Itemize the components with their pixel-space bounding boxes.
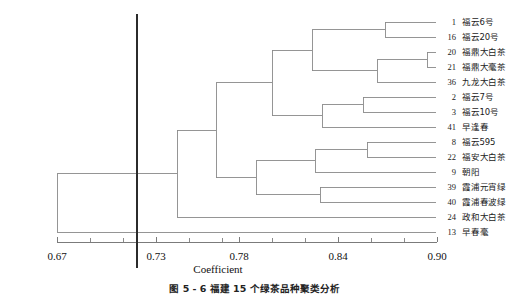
figure-caption: 图 5 - 6 福建 15 个绿茶品种聚类分析 bbox=[0, 281, 509, 295]
leaf-id: 20 bbox=[436, 48, 456, 57]
leaf-id: 24 bbox=[436, 213, 456, 222]
link-root bbox=[57, 174, 436, 232]
leaf-label: 朝阳 bbox=[462, 168, 480, 177]
link-39-40 bbox=[320, 187, 436, 202]
list-item: 9 朝阳 bbox=[436, 165, 480, 179]
leaf-id: 13 bbox=[436, 228, 456, 237]
link-main bbox=[216, 83, 272, 178]
list-item: 41 早逢春 bbox=[436, 120, 488, 134]
list-item: 40 霞浦春波绿 bbox=[436, 195, 506, 209]
leaf-label: 福云10号 bbox=[462, 108, 499, 117]
leaf-label: 政和大白茶 bbox=[462, 213, 506, 222]
dendrogram-links bbox=[57, 22, 436, 232]
leaf-label: 早逢春 bbox=[462, 123, 488, 132]
list-item: 16 福云20号 bbox=[436, 30, 499, 44]
x-tick-label: 0.84 bbox=[328, 250, 347, 262]
link-8_22-9 bbox=[315, 150, 436, 173]
link-2_3-41 bbox=[322, 105, 436, 128]
leaf-id: 22 bbox=[436, 153, 456, 162]
leaf-label: 福鼎大白茶 bbox=[462, 48, 506, 57]
leaf-id: 2 bbox=[436, 93, 456, 102]
link-1-16 bbox=[385, 22, 436, 37]
leaf-label: 福云20号 bbox=[462, 33, 499, 42]
leaf-label: 福鼎大毫茶 bbox=[462, 63, 506, 72]
list-item: 39 霞浦元宵绿 bbox=[436, 180, 506, 194]
x-axis-title: Coefficient bbox=[0, 263, 436, 275]
leaf-id: 16 bbox=[436, 33, 456, 42]
x-axis bbox=[57, 237, 437, 243]
list-item: 2 福云7号 bbox=[436, 90, 494, 104]
list-item: 1 福云6号 bbox=[436, 15, 494, 29]
list-item: 21 福鼎大毫茶 bbox=[436, 60, 506, 74]
leaf-label: 福云6号 bbox=[462, 18, 494, 27]
link-20-21 bbox=[427, 52, 436, 67]
list-item: 13 早春毫 bbox=[436, 225, 488, 239]
leaf-label: 九龙大白茶 bbox=[462, 78, 506, 87]
list-item: 3 福云10号 bbox=[436, 105, 499, 119]
x-tick-label: 0.73 bbox=[146, 250, 165, 262]
leaf-label: 福安大白茶 bbox=[462, 153, 506, 162]
list-item: 24 政和大白茶 bbox=[436, 210, 506, 224]
list-item: 20 福鼎大白茶 bbox=[436, 45, 506, 59]
link-lower-cluster bbox=[256, 161, 320, 195]
x-tick-label: 0.90 bbox=[427, 250, 446, 262]
leaf-id: 9 bbox=[436, 168, 456, 177]
leaf-id: 36 bbox=[436, 78, 456, 87]
link-upper-cluster bbox=[272, 50, 322, 116]
leaf-label: 福云595 bbox=[462, 138, 495, 147]
leaf-label: 早春毫 bbox=[462, 228, 488, 237]
leaf-id: 41 bbox=[436, 123, 456, 132]
x-tick-label: 0.78 bbox=[229, 250, 248, 262]
leaf-id: 21 bbox=[436, 63, 456, 72]
list-item: 22 福安大白茶 bbox=[436, 150, 506, 164]
leaf-label: 霞浦元宵绿 bbox=[462, 183, 506, 192]
list-item: 36 九龙大白茶 bbox=[436, 75, 506, 89]
leaf-id: 1 bbox=[436, 18, 456, 27]
leaf-label: 霞浦春波绿 bbox=[462, 198, 506, 207]
link-2-3 bbox=[363, 97, 436, 112]
leaf-id: 39 bbox=[436, 183, 456, 192]
link-1_16-20_21_36 bbox=[312, 30, 385, 71]
list-item: 8 福云595 bbox=[436, 135, 495, 149]
link-8-22 bbox=[367, 142, 436, 157]
leaf-id: 40 bbox=[436, 198, 456, 207]
leaf-label: 福云7号 bbox=[462, 93, 494, 102]
leaf-id: 3 bbox=[436, 108, 456, 117]
leaf-id: 8 bbox=[436, 138, 456, 147]
x-tick-label: 0.67 bbox=[47, 250, 66, 262]
